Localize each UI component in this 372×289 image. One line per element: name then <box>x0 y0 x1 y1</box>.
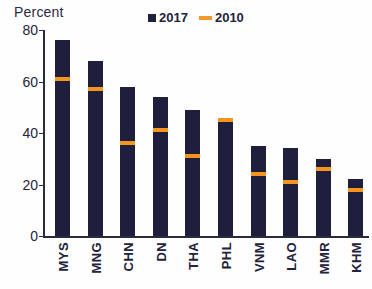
legend-item-2010: 2010 <box>199 10 244 25</box>
x-tick-label-mys: MYS <box>56 242 71 271</box>
y-axis-line <box>43 30 45 236</box>
x-tick-label-khm: KHM <box>349 242 364 273</box>
x-tick-label-mng: MNG <box>89 242 104 274</box>
bar-chn <box>120 87 135 236</box>
y-tick-label: 80 <box>22 22 38 38</box>
bar-vnm <box>251 146 266 236</box>
bar-lao <box>283 148 298 236</box>
marker-2010-dn <box>153 128 168 132</box>
marker-2010-khm <box>348 188 363 192</box>
plot-area <box>43 30 369 236</box>
y-axis-title: Percent <box>14 4 64 20</box>
legend-label-2017: 2017 <box>159 10 188 25</box>
marker-2010-phl <box>218 118 233 122</box>
marker-2010-mng <box>88 87 103 91</box>
y-tick-label: 0 <box>30 228 38 244</box>
marker-2010-lao <box>283 180 298 184</box>
marker-2010-tha <box>185 154 200 158</box>
bar-dn <box>153 97 168 236</box>
marker-2010-vnm <box>251 172 266 176</box>
legend-dash-icon <box>199 16 212 20</box>
x-tick-label-tha: THA <box>186 242 201 270</box>
bar-phl <box>218 118 233 236</box>
marker-2010-chn <box>120 141 135 145</box>
bar-tha <box>185 110 200 236</box>
x-axis-line <box>43 236 369 238</box>
x-tick-label-phl: PHL <box>219 242 234 269</box>
y-tick-mark <box>39 133 43 134</box>
bar-chart: Percent 2017 2010 020406080 MYSMNGCHNDNT… <box>0 0 372 289</box>
y-tick-mark <box>39 30 43 31</box>
y-tick-label: 40 <box>22 125 38 141</box>
marker-2010-mys <box>55 77 70 81</box>
y-tick-label: 20 <box>22 177 38 193</box>
y-tick-label: 60 <box>22 74 38 90</box>
x-tick-label-mmr: MMR <box>317 242 332 274</box>
chart-legend: 2017 2010 <box>148 10 244 25</box>
y-axis-tick-labels: 020406080 <box>0 30 38 236</box>
marker-2010-mmr <box>316 167 331 171</box>
legend-item-2017: 2017 <box>148 10 188 25</box>
x-tick-label-vnm: VNM <box>252 242 267 272</box>
y-tick-mark <box>39 82 43 83</box>
y-tick-mark <box>39 236 43 237</box>
x-tick-label-lao: LAO <box>284 242 299 271</box>
legend-square-icon <box>148 14 156 22</box>
x-tick-label-chn: CHN <box>121 242 136 271</box>
x-tick-label-dn: DN <box>154 242 169 262</box>
bar-mys <box>55 40 70 236</box>
legend-label-2010: 2010 <box>215 10 244 25</box>
y-tick-mark <box>39 185 43 186</box>
